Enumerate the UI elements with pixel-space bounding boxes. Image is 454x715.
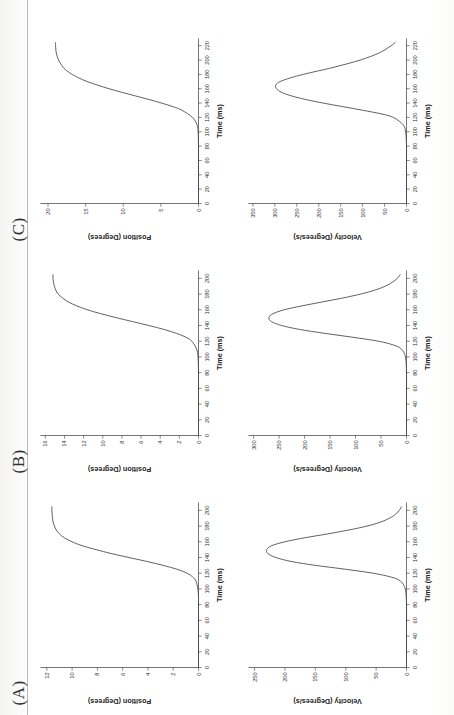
y-tick-label: 4 [144, 672, 150, 675]
x-tick-label: 200 [411, 273, 417, 282]
y-tick-label: 50 [373, 672, 379, 678]
panel-a-label: (A) [8, 680, 28, 705]
y-tick-label: 0 [195, 208, 201, 211]
x-tick-label: 60 [411, 617, 417, 623]
data-curve [52, 274, 198, 435]
x-axis-title: Time (ms) [422, 567, 431, 601]
x-tick-label: 180 [411, 69, 417, 78]
x-tick-label: 20 [203, 186, 209, 192]
x-tick-label: 40 [411, 171, 417, 177]
x-tick-label: 60 [203, 157, 209, 163]
panel-a-velocity-svg: 0204060801001201401601802000501001502002… [238, 494, 434, 707]
x-tick-label: 160 [203, 305, 209, 314]
x-tick-label: 140 [203, 552, 209, 561]
x-tick-label: 200 [411, 55, 417, 64]
panel-a-position-plot: 020406080100120140160180200024681012Time… [30, 494, 226, 707]
x-tick-label: 160 [411, 305, 417, 314]
y-tick-label: 50 [378, 440, 384, 446]
panel-c-position-plot: 02040608010012014016018020022005101520Ti… [30, 30, 226, 243]
y-tick-label: 100 [342, 672, 348, 681]
x-tick-label: 200 [203, 55, 209, 64]
panel-b-position-svg: 0204060801001201401601802000246810121416… [30, 262, 226, 475]
y-tick-label: 150 [327, 440, 333, 449]
y-axis-title: Position (Degrees) [87, 232, 151, 241]
data-curve [266, 506, 406, 667]
y-tick-label: 150 [337, 208, 343, 217]
rotated-figure-page: (A) 020406080100120140160180200024681012… [0, 0, 454, 715]
y-tick-label: 0 [403, 208, 409, 211]
x-tick-label: 40 [203, 632, 209, 638]
x-tick-label: 20 [203, 648, 209, 654]
x-tick-label: 20 [411, 186, 417, 192]
x-tick-label: 100 [411, 584, 417, 593]
x-tick-label: 20 [203, 416, 209, 422]
y-tick-label: 12 [43, 672, 49, 678]
y-tick-label: 50 [381, 208, 387, 214]
panel-c: (C) 020406080100120140160180200220051015… [6, 30, 436, 243]
data-curve [51, 506, 198, 667]
y-tick-label: 0 [195, 440, 201, 443]
panel-c-velocity-plot: 0204060801001201401601802002200501001502… [238, 30, 434, 243]
x-tick-label: 60 [411, 157, 417, 163]
x-tick-label: 80 [411, 369, 417, 375]
y-axis-title: Position (Degrees) [87, 464, 151, 473]
y-tick-label: 300 [271, 208, 277, 217]
x-tick-label: 160 [411, 537, 417, 546]
x-tick-label: 140 [411, 320, 417, 329]
x-tick-label: 200 [203, 505, 209, 514]
y-tick-label: 6 [119, 672, 125, 675]
y-tick-label: 20 [45, 208, 51, 214]
x-tick-label: 0 [411, 201, 417, 204]
panel-b-label: (B) [8, 449, 28, 473]
y-tick-label: 0 [403, 672, 409, 675]
x-tick-label: 160 [203, 537, 209, 546]
data-curve [268, 274, 406, 435]
x-axis-title: Time (ms) [422, 335, 431, 369]
y-tick-label: 0 [403, 440, 409, 443]
y-tick-label: 5 [157, 208, 163, 211]
y-tick-label: 10 [99, 440, 105, 446]
y-tick-label: 250 [293, 208, 299, 217]
x-tick-label: 100 [411, 127, 417, 136]
x-tick-label: 120 [203, 568, 209, 577]
x-tick-label: 200 [203, 273, 209, 282]
x-tick-label: 180 [203, 69, 209, 78]
y-tick-label: 15 [82, 208, 88, 214]
x-axis-title: Time (ms) [422, 103, 431, 137]
y-axis-title: Velocity (Degrees/s) [292, 232, 361, 241]
x-tick-label: 80 [203, 142, 209, 148]
panel-a: (A) 020406080100120140160180200024681012… [6, 494, 436, 707]
x-tick-label: 160 [411, 84, 417, 93]
x-tick-label: 0 [411, 665, 417, 668]
x-tick-label: 100 [411, 352, 417, 361]
x-tick-label: 220 [203, 41, 209, 50]
x-tick-label: 120 [203, 112, 209, 121]
panel-b: (B) 020406080100120140160180200024681012… [6, 262, 436, 475]
y-tick-label: 250 [276, 440, 282, 449]
x-tick-label: 40 [203, 171, 209, 177]
x-tick-label: 0 [411, 433, 417, 436]
y-tick-label: 10 [120, 208, 126, 214]
panel-b-position-plot: 0204060801001201401601802000246810121416… [30, 262, 226, 475]
x-tick-label: 0 [203, 665, 209, 668]
x-axis-title: Time (ms) [214, 335, 223, 369]
x-tick-label: 60 [203, 617, 209, 623]
x-tick-label: 140 [411, 552, 417, 561]
y-axis-title: Velocity (Degrees/s) [292, 464, 361, 473]
y-axis-title: Position (Degrees) [87, 696, 151, 705]
x-tick-label: 40 [203, 400, 209, 406]
y-tick-label: 8 [94, 672, 100, 675]
y-tick-label: 250 [251, 672, 257, 681]
y-tick-label: 10 [69, 672, 75, 678]
x-tick-label: 180 [203, 521, 209, 530]
y-tick-label: 100 [352, 440, 358, 449]
panel-a-velocity-plot: 0204060801001201401601802000501001502002… [238, 494, 434, 707]
data-curve [55, 42, 198, 203]
x-tick-label: 100 [203, 352, 209, 361]
x-tick-label: 120 [411, 336, 417, 345]
x-tick-label: 180 [203, 289, 209, 298]
x-tick-label: 180 [411, 289, 417, 298]
panel-a-position-svg: 020406080100120140160180200024681012Time… [30, 494, 226, 707]
x-tick-label: 40 [411, 400, 417, 406]
y-tick-label: 350 [249, 208, 255, 217]
